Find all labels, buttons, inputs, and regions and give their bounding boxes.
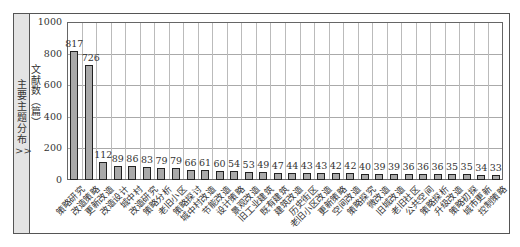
bar-value-label: 33 <box>486 162 506 173</box>
gridline-vertical <box>270 23 271 179</box>
bar[interactable] <box>448 174 456 180</box>
gridline-vertical <box>329 23 330 179</box>
bar[interactable] <box>85 65 93 180</box>
gridline-vertical <box>343 23 344 179</box>
bar[interactable] <box>259 172 267 180</box>
y-tick-label: 1000 <box>36 16 62 27</box>
bar[interactable] <box>419 174 427 180</box>
y-tick-label: 0 <box>36 174 62 185</box>
gridline-vertical <box>285 23 286 179</box>
gridline-vertical <box>256 23 257 179</box>
gridline-vertical <box>387 23 388 179</box>
bar[interactable] <box>346 173 354 180</box>
bar[interactable] <box>375 174 383 180</box>
bar[interactable] <box>463 174 471 180</box>
bar[interactable] <box>405 174 413 180</box>
gridline-vertical <box>474 23 475 179</box>
expand-arrow-icon[interactable]: >> <box>15 145 32 156</box>
gridline-vertical <box>430 23 431 179</box>
gridline-vertical <box>241 23 242 179</box>
side-panel-title: 主要主题分布 >> <box>15 79 29 156</box>
bar[interactable] <box>361 174 369 180</box>
bar[interactable] <box>187 170 195 180</box>
gridline-vertical <box>459 23 460 179</box>
bar[interactable] <box>317 173 325 180</box>
side-panel[interactable]: 主要主题分布 >> <box>14 14 30 233</box>
gridline-vertical <box>300 23 301 179</box>
bar-value-label: 817 <box>64 38 84 49</box>
bar[interactable] <box>288 173 296 180</box>
gridline-vertical <box>227 23 228 179</box>
bar[interactable] <box>70 51 78 180</box>
bar[interactable] <box>274 173 282 180</box>
y-tick-label: 600 <box>36 79 62 90</box>
y-tick-label: 800 <box>36 48 62 59</box>
gridline-vertical <box>445 23 446 179</box>
bar-value-label: 726 <box>81 52 101 63</box>
bar[interactable] <box>99 162 107 180</box>
bar[interactable] <box>434 174 442 180</box>
bar[interactable] <box>303 173 311 180</box>
bar[interactable] <box>492 175 500 180</box>
bar[interactable] <box>128 166 136 180</box>
gridline-vertical <box>358 23 359 179</box>
y-tick-label: 200 <box>36 142 62 153</box>
gridline-vertical <box>372 23 373 179</box>
bar[interactable] <box>201 170 209 180</box>
gridline-vertical <box>401 23 402 179</box>
gridline-vertical <box>314 23 315 179</box>
bar[interactable] <box>172 168 180 180</box>
bar[interactable] <box>157 168 165 180</box>
bar[interactable] <box>114 166 122 180</box>
gridline-vertical <box>488 23 489 179</box>
gridline-vertical <box>416 23 417 179</box>
bar[interactable] <box>477 175 485 180</box>
bar[interactable] <box>390 174 398 180</box>
bar[interactable] <box>143 167 151 180</box>
gridline-vertical <box>212 23 213 179</box>
bar[interactable] <box>332 173 340 180</box>
bar[interactable] <box>245 172 253 180</box>
bar[interactable] <box>216 171 224 180</box>
y-tick-label: 400 <box>36 111 62 122</box>
bar[interactable] <box>230 171 238 180</box>
